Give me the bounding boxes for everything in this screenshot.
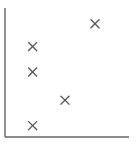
data-markers [29,20,99,130]
x-marker-icon [29,122,37,130]
x-marker-icon [29,43,37,51]
scatter-chart [0,0,137,146]
x-marker-icon [29,68,37,76]
axes [5,8,129,137]
x-marker-icon [91,20,99,28]
x-marker-icon [61,96,69,104]
